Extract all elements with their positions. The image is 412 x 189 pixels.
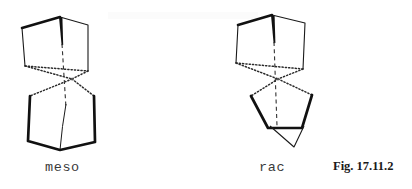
rac-apex-wedge <box>271 15 275 43</box>
rac-upper-ring <box>236 15 305 69</box>
figure-caption: Fig. 17.11.2 <box>333 159 393 174</box>
rac-spiro-bond-upper-right <box>278 69 303 79</box>
meso-lower-ring <box>28 96 95 150</box>
meso-spiro-bond-lower-right <box>72 79 94 96</box>
rac-spiro-bond-lower-right <box>278 79 312 95</box>
structure-rac <box>236 15 312 147</box>
rac-upper-bold-edge <box>238 15 272 25</box>
meso-spiro-bond-lower-left <box>30 79 72 96</box>
rac-lower-bold-edges <box>251 95 312 128</box>
meso-axis-thin-line <box>60 104 66 150</box>
meso-upper-ring <box>22 17 88 71</box>
meso-spiro-bond-upper-right <box>72 71 88 79</box>
rac-upper-dotted-edge <box>236 63 303 69</box>
rac-spiro-bonds <box>236 63 312 96</box>
structure-label-rac: rac <box>259 160 285 175</box>
meso-apex-wedge <box>59 17 63 45</box>
meso-spiro-center-atom <box>71 78 74 81</box>
meso-axis-dashed-line <box>62 44 66 108</box>
rac-spiro-center-atom <box>277 78 280 81</box>
meso-lower-bold-edges <box>28 96 95 150</box>
rac-axis-dashed-line <box>274 42 277 126</box>
structure-label-meso: meso <box>45 160 80 175</box>
rac-spiro-bond-lower-left <box>251 79 278 96</box>
rac-lower-ring <box>251 95 312 147</box>
structure-meso <box>22 17 95 150</box>
meso-upper-bold-edge <box>22 17 60 28</box>
